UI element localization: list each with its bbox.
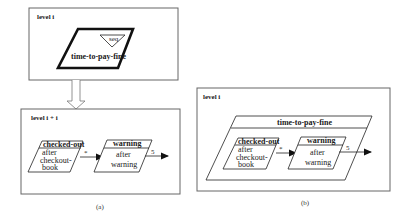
superstate-name: time-to-pay-fine xyxy=(71,52,127,61)
panel-a: level i seq time-to-pay-fine level i + i xyxy=(21,8,180,211)
transition-label: 5 xyxy=(346,144,350,152)
panel-b: level i time-to-pay-fine checked-out aft… xyxy=(197,88,390,207)
state-title: warning xyxy=(113,139,141,148)
level-i-plus-i-frame: level i + i checked-out after checkout- … xyxy=(21,109,180,194)
state-title: warning xyxy=(307,136,335,145)
diagram-canvas: level i seq time-to-pay-fine level i + i xyxy=(0,0,410,220)
state-body-line: warning xyxy=(305,158,331,167)
transition-label: 5 xyxy=(151,148,155,156)
state-body-line: warning xyxy=(111,160,137,169)
refinement-arrow-icon xyxy=(67,80,85,109)
caption-b: (b) xyxy=(301,199,310,207)
state-body-line: book xyxy=(42,163,58,172)
transition-label: * xyxy=(279,145,283,153)
state-body-line: after xyxy=(116,150,131,159)
level-i-frame: level i seq time-to-pay-fine xyxy=(29,8,178,80)
state-body-line: book xyxy=(238,160,254,169)
state-body-line: after xyxy=(310,148,325,157)
seq-badge-label: seq xyxy=(109,35,119,43)
level-label: level i + i xyxy=(31,114,58,122)
transition-label: * xyxy=(84,149,88,157)
level-label: level i xyxy=(203,93,220,101)
caption-a: (a) xyxy=(96,203,104,211)
superstate-name: time-to-pay-fine xyxy=(277,118,333,127)
level-label: level i xyxy=(37,13,54,21)
